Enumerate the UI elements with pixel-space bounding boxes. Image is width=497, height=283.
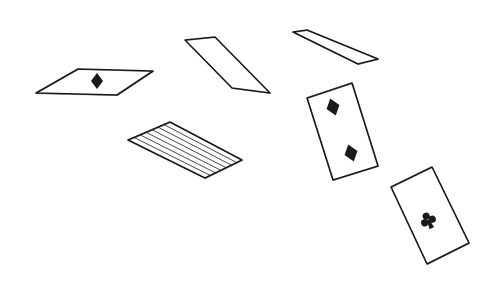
card-outline <box>293 30 378 64</box>
cards-canvas <box>0 0 497 283</box>
card-blank-edge-left <box>185 37 271 94</box>
card-diamond-flat <box>36 69 154 96</box>
card-outline <box>185 37 270 93</box>
card-two-of-diamonds <box>307 83 379 181</box>
card-illustration: Sketch of falling playing cards <box>0 0 497 283</box>
card-ace-of-clubs <box>391 167 470 265</box>
card-back-striped <box>128 122 243 179</box>
card-blank-edge-right <box>293 30 379 65</box>
